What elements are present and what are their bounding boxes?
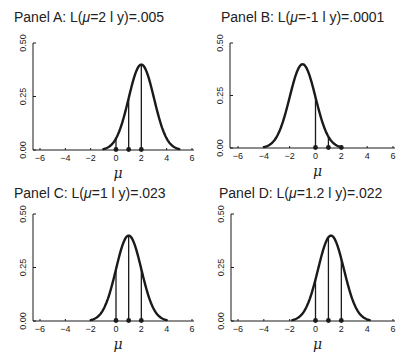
- x-axis-label: μ: [113, 336, 122, 352]
- y-tick-label: 0.25: [216, 259, 226, 277]
- x-tick-label: 0: [313, 324, 318, 334]
- observation-dot: [339, 318, 344, 323]
- x-axis-label: μ: [113, 165, 122, 181]
- observation-dot: [326, 145, 331, 150]
- y-tick-label: 0.00: [18, 312, 28, 330]
- x-tick-label: −2: [86, 324, 96, 334]
- observation-dot: [126, 318, 131, 323]
- x-tick-label: 6: [189, 324, 194, 334]
- x-axis-label: μ: [313, 163, 322, 179]
- x-tick-label: 6: [390, 151, 395, 161]
- x-tick-label: −4: [60, 324, 70, 334]
- y-tick-label: 0.25: [18, 88, 28, 106]
- panel-d: Panel D: L(μ=1.2 l y)=.022 0.000.250.50−…: [205, 180, 410, 363]
- x-tick-label: −2: [285, 151, 295, 161]
- observation-dot: [313, 145, 318, 150]
- x-tick-label: −6: [233, 324, 243, 334]
- x-tick-label: −6: [35, 153, 45, 163]
- y-tick-label: 0.50: [18, 205, 28, 223]
- chart-svg: 0.000.250.50−6−4−20246μ: [205, 0, 410, 180]
- y-tick-label: 0.50: [18, 34, 28, 52]
- y-tick-label: 0.00: [18, 141, 28, 159]
- y-tick-label: 0.25: [215, 87, 225, 105]
- density-curve: [264, 64, 342, 147]
- x-tick-label: −4: [60, 153, 70, 163]
- x-tick-label: 0: [113, 324, 118, 334]
- observation-dot: [139, 147, 144, 152]
- x-tick-label: −6: [35, 324, 45, 334]
- panel-a: Panel A: L(μ=2 l y)=.005 0.000.250.50−6−…: [0, 0, 205, 180]
- y-tick-label: 0.00: [215, 139, 225, 157]
- x-tick-label: 2: [139, 324, 144, 334]
- observation-dot: [139, 318, 144, 323]
- observation-dot: [339, 145, 344, 150]
- x-tick-label: −2: [86, 153, 96, 163]
- x-tick-label: −6: [233, 151, 243, 161]
- panel-c: Panel C: L(μ=1 l y)=.023 0.000.250.50−6−…: [0, 180, 205, 363]
- x-tick-label: 4: [365, 324, 370, 334]
- chart-svg: 0.000.250.50−6−4−20246μ: [0, 0, 205, 180]
- x-tick-label: −2: [285, 324, 295, 334]
- y-tick-label: 0.50: [216, 205, 226, 223]
- x-tick-label: −4: [259, 324, 269, 334]
- x-tick-label: 4: [365, 151, 370, 161]
- x-tick-label: 0: [313, 151, 318, 161]
- panel-b: Panel B: L(μ=-1 l y)=.0001 0.000.250.50−…: [205, 0, 410, 180]
- x-tick-label: 6: [189, 153, 194, 163]
- x-tick-label: 2: [339, 151, 344, 161]
- x-tick-label: −4: [259, 151, 269, 161]
- y-tick-label: 0.50: [215, 34, 225, 52]
- observation-dot: [326, 318, 331, 323]
- x-tick-label: 6: [390, 324, 395, 334]
- observation-dot: [313, 318, 318, 323]
- observation-dot: [114, 318, 119, 323]
- x-tick-label: 0: [113, 153, 118, 163]
- chart-svg: 0.000.250.50−6−4−20246μ: [0, 180, 205, 363]
- chart-svg: 0.000.250.50−6−4−20246μ: [205, 180, 410, 363]
- observation-dot: [126, 147, 131, 152]
- observation-dot: [114, 147, 119, 152]
- x-tick-label: 2: [139, 153, 144, 163]
- x-tick-label: 4: [164, 153, 169, 163]
- y-tick-label: 0.25: [18, 259, 28, 277]
- y-tick-label: 0.00: [216, 312, 226, 330]
- x-tick-label: 4: [164, 324, 169, 334]
- density-curve: [292, 236, 370, 320]
- x-axis-label: μ: [313, 336, 322, 352]
- x-tick-label: 2: [339, 324, 344, 334]
